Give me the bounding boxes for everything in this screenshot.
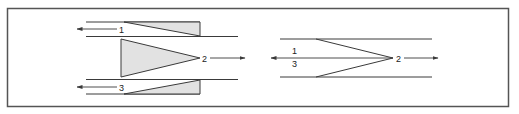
left-diagram: 1 2 3: [77, 22, 245, 94]
upper-wedge: [124, 22, 200, 36]
label-2: 2: [202, 54, 207, 64]
center-triangle: [121, 39, 200, 77]
label-3: 3: [119, 83, 124, 93]
right-diagram: 1 3 2: [271, 39, 438, 77]
label-1: 1: [119, 25, 124, 35]
lower-wedge: [124, 80, 200, 94]
right-label-3: 3: [292, 59, 297, 69]
figure-frame: [8, 9, 509, 107]
right-label-2: 2: [396, 54, 401, 64]
diagram-canvas: 1 2 3 1 3 2: [0, 0, 519, 114]
right-label-1: 1: [292, 46, 297, 56]
